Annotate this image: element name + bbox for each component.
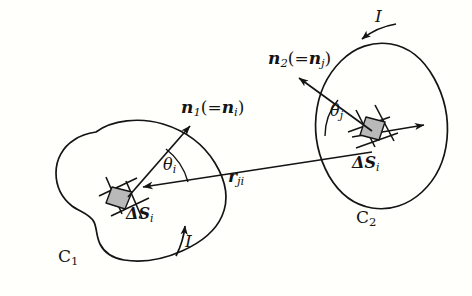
label-n1-subscript: 1 — [193, 105, 200, 119]
label-n2-equals: = — [294, 48, 308, 68]
normal-vector-n1 — [128, 126, 190, 197]
label-current-loop-2: I — [375, 8, 382, 25]
label-rji-symbol: r — [228, 166, 237, 186]
label-i-1-symbol: I — [185, 231, 192, 251]
label-n2-paren-close: ) — [325, 48, 332, 68]
label-rji-subscript: ji — [237, 174, 244, 188]
label-i-2-symbol: I — [375, 6, 382, 26]
label-n1-equals: = — [207, 97, 221, 117]
label-theta-j-subscript: j — [340, 109, 343, 122]
label-dsi-2-delta: Δ — [352, 153, 364, 172]
label-c1-subscript: 1 — [71, 254, 78, 268]
loop-c1-outline — [56, 120, 226, 261]
label-surface-element-1: ΔSi — [126, 206, 153, 225]
label-n2-subscript: 2 — [280, 56, 287, 70]
label-theta-i-symbol: θ — [163, 155, 173, 174]
label-angle-theta-j: θj — [330, 103, 343, 122]
label-theta-j-symbol: θ — [330, 101, 340, 120]
label-n2-alias-symbol: n — [309, 48, 321, 68]
label-normal-n1: n1(=ni) — [181, 99, 244, 119]
label-c1-symbol: C — [58, 246, 71, 266]
label-n1-alias-symbol: n — [222, 97, 234, 117]
label-current-loop-1: I — [185, 233, 192, 250]
label-curve-c2: C2 — [356, 209, 376, 229]
label-angle-theta-i: θi — [163, 157, 176, 176]
label-dsi-1-symbol: S — [138, 204, 150, 223]
label-theta-i-subscript: i — [173, 163, 176, 176]
label-dsi-2-symbol: S — [364, 153, 376, 172]
label-normal-n2: n2(=nj) — [268, 50, 331, 70]
label-curve-c1: C1 — [58, 248, 78, 268]
label-n1-paren-close: ) — [238, 97, 245, 117]
label-n1-symbol: n — [181, 97, 193, 117]
label-c2-subscript: 2 — [369, 215, 376, 229]
label-c2-symbol: C — [356, 207, 369, 227]
label-n2-symbol: n — [268, 48, 280, 68]
label-separation-vector-rji: rji — [228, 168, 244, 188]
label-dsi-1-delta: Δ — [126, 204, 138, 223]
figure-two-current-loops: n1(=ni) n2(=nj) θi θj rji ΔSi ΔSi C1 C2 … — [0, 0, 472, 296]
label-dsi-2-subscript: i — [376, 161, 379, 174]
current-arrow-loop-2 — [362, 24, 396, 39]
label-dsi-1-subscript: i — [150, 212, 153, 225]
label-surface-element-2: ΔSi — [352, 155, 379, 174]
surface-element-patch-2 — [348, 105, 398, 148]
